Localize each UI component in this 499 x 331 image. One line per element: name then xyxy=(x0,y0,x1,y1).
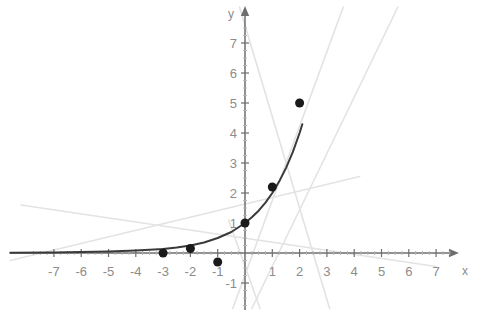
data-point xyxy=(295,99,304,108)
x-tick-label: 3 xyxy=(316,265,338,278)
faint-line-4 xyxy=(240,7,330,309)
ticks-group xyxy=(33,28,449,306)
data-point xyxy=(241,219,250,228)
x-tick-label: -2 xyxy=(179,265,201,278)
curve-group xyxy=(10,124,302,252)
y-tick-label: 2 xyxy=(217,187,237,200)
x-tick-label: -7 xyxy=(43,265,65,278)
x-axis-label: x xyxy=(462,265,468,277)
x-tick-label: 7 xyxy=(425,265,447,278)
x-tick-label: 6 xyxy=(398,265,420,278)
x-tick-label: 1 xyxy=(261,265,283,278)
y-axis-arrow-icon xyxy=(241,6,249,16)
y-tick-label: 3 xyxy=(217,157,237,170)
coordinate-plane xyxy=(0,0,499,331)
y-tick-label: 4 xyxy=(217,127,237,140)
x-tick-label: -3 xyxy=(152,265,174,278)
y-tick-label: 7 xyxy=(217,37,237,50)
x-tick-label: 2 xyxy=(289,265,311,278)
x-tick-label: 4 xyxy=(343,265,365,278)
data-point xyxy=(186,244,195,253)
data-point xyxy=(268,183,277,192)
data-point xyxy=(159,249,168,258)
x-tick-label: -6 xyxy=(70,265,92,278)
faint-line-1 xyxy=(21,205,436,267)
y-tick-label: 1 xyxy=(217,217,237,230)
x-tick-label: -5 xyxy=(98,265,120,278)
graph-figure: -7-6-5-4-3-2-11234567-11234567 x y xyxy=(0,0,499,331)
x-tick-label: 5 xyxy=(371,265,393,278)
y-tick-label: 6 xyxy=(217,67,237,80)
x-axis-arrow-icon xyxy=(449,249,459,257)
y-tick-label: -1 xyxy=(217,277,237,290)
data-points-group xyxy=(159,99,305,267)
y-tick-label: 5 xyxy=(217,97,237,110)
exponential-curve xyxy=(10,124,302,252)
x-tick-label: -4 xyxy=(125,265,147,278)
y-axis-label: y xyxy=(228,8,234,20)
